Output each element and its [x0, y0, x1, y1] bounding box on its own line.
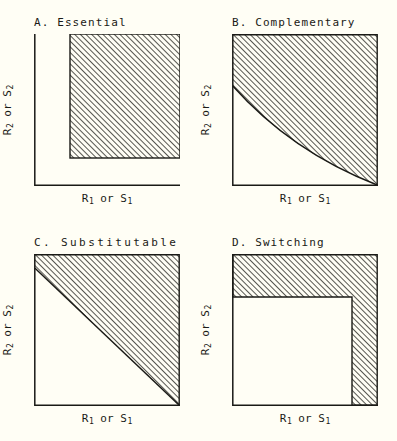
y-axis-base-1-c: R — [1, 348, 14, 355]
panel-switching: D. Switching R2 or S2 R1 or S1 — [198, 220, 396, 440]
x-axis-sub-1-a: 1 — [89, 197, 94, 206]
y-axis-conjunction-d: or — [199, 317, 212, 344]
y-axis-conjunction-b: or — [199, 97, 212, 124]
panel-title-c: C. Substitutable — [34, 236, 178, 250]
x-axis-sub-1-b: 1 — [287, 197, 292, 206]
plot-svg-b — [232, 34, 378, 186]
x-axis-base-1-c: R — [82, 412, 89, 425]
y-axis-base-2-d: S — [199, 310, 212, 317]
x-axis-label-b: R1 or S1 — [232, 192, 378, 206]
y-axis-base-2-a: S — [1, 90, 14, 97]
plot-area-a — [34, 34, 180, 186]
y-axis-label-a: R2 or S2 — [0, 34, 16, 186]
shaded-region-b — [233, 35, 377, 185]
x-axis-label-a: R1 or S1 — [34, 192, 180, 206]
plot-svg-d — [232, 254, 378, 406]
x-axis-base-1-d: R — [280, 412, 287, 425]
y-axis-base-1-d: R — [199, 348, 212, 355]
y-axis-sub-1-a: 2 — [6, 123, 15, 128]
x-axis-conjunction-d: or — [292, 412, 319, 425]
y-axis-conjunction-a: or — [1, 97, 14, 124]
plot-area-d — [232, 254, 378, 406]
y-axis-base-1-a: R — [1, 128, 14, 135]
panel-title-b: B. Complementary — [232, 16, 356, 30]
x-axis-sub-1-d: 1 — [287, 417, 292, 426]
shaded-region-d — [233, 255, 377, 405]
x-axis-label-d: R1 or S1 — [232, 412, 378, 426]
y-axis-sub-1-c: 2 — [6, 343, 15, 348]
y-axis-sub-2-c: 2 — [6, 305, 15, 310]
y-axis-sub-1-d: 2 — [204, 343, 213, 348]
shaded-region-c — [35, 255, 179, 405]
x-axis-base-1-a: R — [82, 192, 89, 205]
plot-area-c — [34, 254, 180, 406]
plot-svg-a — [34, 34, 180, 186]
y-axis-sub-2-b: 2 — [204, 85, 213, 90]
x-axis-sub-2-a: 1 — [127, 197, 132, 206]
panel-substitutable: C. Substitutable R2 or S2 — [0, 220, 198, 440]
panel-complementary: B. Complementary R2 or S2 — [198, 0, 396, 220]
y-axis-base-1-b: R — [199, 128, 212, 135]
panel-title-d: D. Switching — [232, 236, 325, 250]
y-axis-label-c: R2 or S2 — [0, 254, 16, 406]
figure-root: A. Essential R2 or S2 R1 or S1 — [0, 0, 397, 441]
plot-svg-c — [34, 254, 180, 406]
shaded-region-a — [70, 34, 180, 158]
y-axis-base-2-b: S — [199, 90, 212, 97]
x-axis-label-c: R1 or S1 — [34, 412, 180, 426]
y-axis-label-b: R2 or S2 — [198, 34, 214, 186]
panel-essential: A. Essential R2 or S2 R1 or S1 — [0, 0, 198, 220]
y-axis-conjunction-c: or — [1, 317, 14, 344]
y-axis-label-d: R2 or S2 — [198, 254, 214, 406]
x-axis-sub-2-c: 1 — [127, 417, 132, 426]
x-axis-sub-1-c: 1 — [89, 417, 94, 426]
y-axis-sub-2-a: 2 — [6, 85, 15, 90]
panel-title-a: A. Essential — [34, 16, 127, 30]
x-axis-sub-2-d: 1 — [325, 417, 330, 426]
y-axis-sub-1-b: 2 — [204, 123, 213, 128]
x-axis-conjunction-b: or — [292, 192, 319, 205]
x-axis-base-1-b: R — [280, 192, 287, 205]
y-axis-sub-2-d: 2 — [204, 305, 213, 310]
plot-area-b — [232, 34, 378, 186]
x-axis-sub-2-b: 1 — [325, 197, 330, 206]
x-axis-conjunction-a: or — [94, 192, 121, 205]
y-axis-base-2-c: S — [1, 310, 14, 317]
x-axis-conjunction-c: or — [94, 412, 121, 425]
